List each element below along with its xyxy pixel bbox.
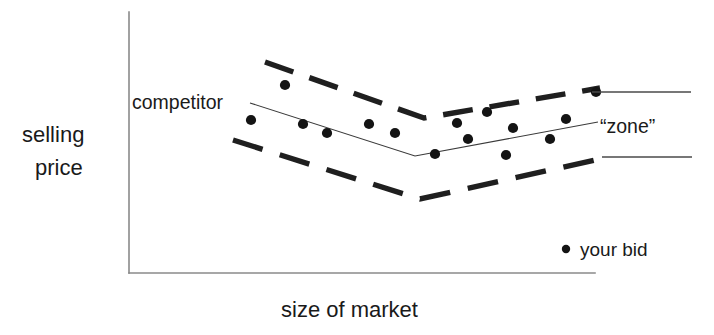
- zone-annotation-label: “zone”: [600, 115, 655, 137]
- x-axis-label: size of market: [281, 297, 418, 322]
- bid-data-point: [364, 119, 374, 129]
- chart-background: [0, 0, 714, 335]
- bid-data-point: [482, 107, 492, 117]
- bid-data-point: [246, 115, 256, 125]
- competitor-annotation-label: competitor: [132, 91, 224, 113]
- bid-data-point: [463, 134, 473, 144]
- bid-data-point: [322, 128, 332, 138]
- bid-data-point: [430, 149, 440, 159]
- bid-data-point: [561, 114, 571, 124]
- bid-zone-chart: selling price size of market competitor …: [0, 0, 714, 335]
- bid-data-point: [545, 134, 555, 144]
- bid-data-point: [298, 119, 308, 129]
- y-axis-label-line1: selling: [22, 122, 84, 147]
- y-axis-label-line2: price: [35, 155, 83, 180]
- bid-data-point: [501, 150, 511, 160]
- legend-dot-marker-icon: [562, 245, 570, 253]
- figure-root: selling price size of market competitor …: [0, 0, 714, 335]
- legend-label: your bid: [580, 239, 648, 260]
- bid-data-point: [508, 123, 518, 133]
- bid-data-point: [280, 80, 290, 90]
- bid-data-point: [390, 128, 400, 138]
- bid-data-point: [452, 118, 462, 128]
